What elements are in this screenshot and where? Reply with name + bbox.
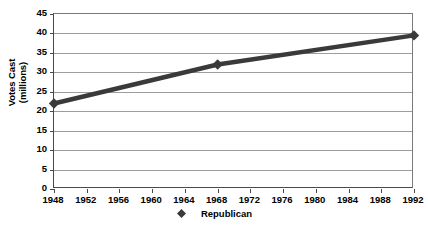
y-axis-tick-label: 20 [25,105,47,115]
y-axis-tick-label: 10 [25,144,47,154]
y-axis-tick-label: 25 [25,86,47,96]
diamond-icon [176,208,187,219]
y-axis-tick-label: 35 [25,47,47,57]
data-point-marker [212,59,222,69]
x-axis-tick [283,189,284,193]
x-axis-tick [250,189,251,193]
series-republican [54,14,414,189]
series-line [54,35,414,103]
legend-label-republican: Republican [201,209,252,219]
x-axis-tick [218,189,219,193]
x-axis-tick [54,189,55,193]
y-axis-tick-label: 0 [25,183,47,193]
data-point-marker [49,98,59,108]
x-axis-tick [316,189,317,193]
x-axis-tick [414,189,415,193]
y-axis-title: Votes Cast (millions) [7,27,28,139]
y-axis-tick-label: 5 [25,164,47,174]
x-axis-tick [152,189,153,193]
y-axis-tick-label: 40 [25,27,47,37]
y-axis-title-line1: Votes Cast [7,27,18,139]
x-axis-tick [349,189,350,193]
x-axis-tick [185,189,186,193]
y-axis-title-line2: (millions) [17,27,28,139]
plot-area [53,13,413,188]
x-axis-tick [119,189,120,193]
x-axis-tick [381,189,382,193]
data-point-marker [409,30,419,40]
chart-legend: Republican [0,208,428,219]
y-axis-tick-label: 45 [25,8,47,18]
x-axis-tick [87,189,88,193]
y-axis-tick-label: 15 [25,125,47,135]
y-axis-tick-label: 30 [25,66,47,76]
chart-container: Votes Cast (millions) 051015202530354045… [0,0,428,230]
x-axis-tick-label: 1992 [393,195,428,205]
